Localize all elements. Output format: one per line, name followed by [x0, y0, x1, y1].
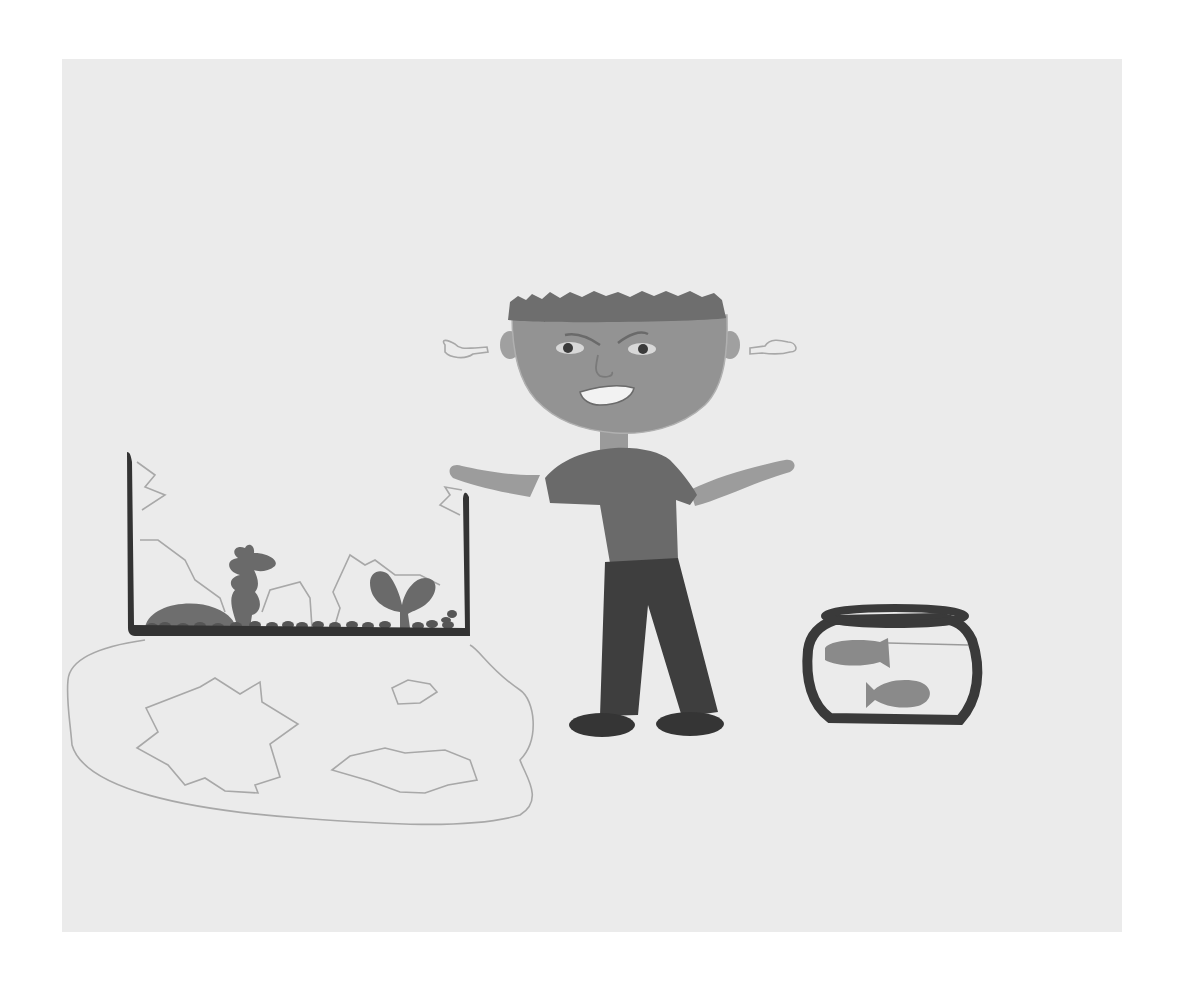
pants: [600, 558, 718, 717]
steam-left: [443, 340, 488, 357]
plant-right: [370, 571, 436, 628]
rock: [145, 604, 235, 627]
drawing-scene: [0, 0, 1180, 987]
hair: [508, 291, 726, 322]
right-arm: [690, 460, 795, 506]
fish-upper: [825, 638, 890, 668]
head: [512, 315, 727, 433]
right-shoe: [656, 712, 724, 736]
shirt: [545, 448, 697, 563]
left-shoe: [569, 713, 635, 737]
plant-left: [229, 545, 276, 628]
steam-right: [750, 340, 796, 354]
aquarium: [127, 452, 470, 636]
water-puddle: [67, 640, 533, 824]
fish-lower: [866, 680, 930, 708]
fishbowl: [807, 608, 977, 720]
left-arm: [450, 465, 540, 497]
